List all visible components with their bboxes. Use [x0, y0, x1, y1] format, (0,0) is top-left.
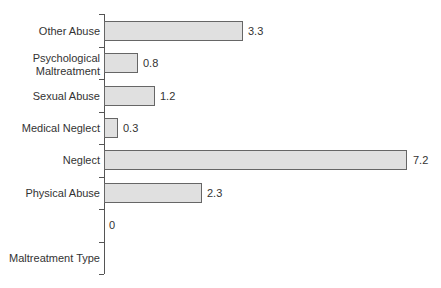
category-label-other-abuse: Other Abuse [39, 25, 100, 38]
value-label-blank: 0 [109, 219, 115, 231]
y-tick [99, 47, 104, 48]
y-tick [99, 177, 104, 178]
y-tick [99, 112, 104, 113]
bar-neglect [104, 150, 407, 170]
y-tick [99, 144, 104, 145]
value-label-neglect: 7.2 [413, 154, 428, 166]
y-tick [99, 209, 104, 210]
bar-other-abuse [104, 21, 243, 41]
bar-psychological-maltreatment [104, 53, 138, 73]
value-label-physical-abuse: 2.3 [207, 187, 222, 199]
category-label-sexual-abuse: Sexual Abuse [33, 90, 100, 103]
category-label-line: Psychological [33, 52, 100, 65]
value-label-sexual-abuse: 1.2 [160, 90, 175, 102]
bar-sexual-abuse [104, 86, 155, 106]
bar-physical-abuse [104, 183, 202, 203]
y-tick [99, 14, 104, 15]
value-label-psychological-maltreatment: 0.8 [143, 57, 158, 69]
category-label-line: Maltreatment [33, 65, 100, 78]
bar-medical-neglect [104, 118, 118, 138]
category-label-psychological-maltreatment: Psychological Maltreatment [33, 52, 100, 78]
category-label-medical-neglect: Medical Neglect [22, 122, 100, 135]
y-tick [99, 274, 104, 275]
y-tick [99, 79, 104, 80]
category-label-neglect: Neglect [63, 154, 100, 167]
value-label-other-abuse: 3.3 [248, 25, 263, 37]
y-tick [99, 242, 104, 243]
category-label-physical-abuse: Physical Abuse [25, 187, 100, 200]
category-label-maltreatment-type: Maltreatment Type [9, 252, 100, 265]
value-label-medical-neglect: 0.3 [123, 122, 138, 134]
